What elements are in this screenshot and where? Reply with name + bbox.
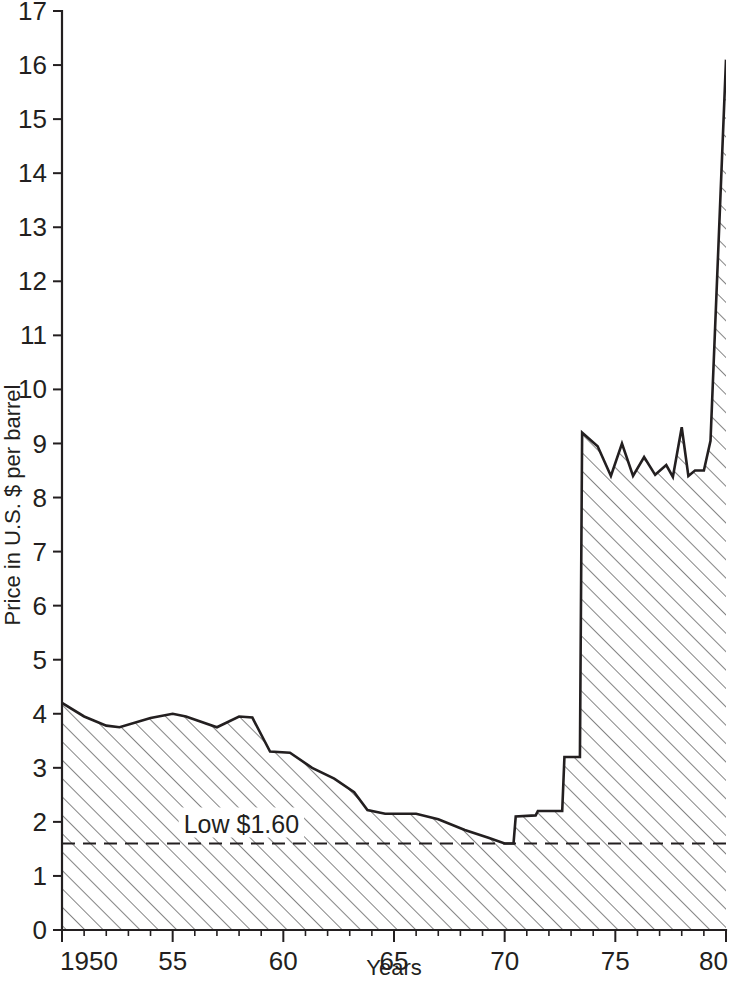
y-tick-label: 8 [33,483,47,513]
x-axis-title: Years [366,955,421,980]
x-tick-label: 75 [601,946,630,976]
y-tick-label: 16 [18,50,47,80]
y-tick-label: 5 [33,645,47,675]
chart-canvas: Low $1.60 01234567891011121314151617 195… [0,0,747,982]
x-tick-label: 55 [158,946,187,976]
y-tick-label: 15 [18,104,47,134]
y-tick-label: 14 [18,158,47,188]
y-tick-label: 3 [33,753,47,783]
y-tick-label: 17 [18,0,47,26]
y-axis-title: Price in U.S. $ per barrel [0,385,25,626]
price-area-fill [62,60,726,930]
y-tick-label: 12 [18,266,47,296]
x-tick-label: 60 [269,946,298,976]
y-tick-label: 0 [33,915,47,945]
low-reference-label: Low $1.60 [184,810,299,838]
y-tick-label: 2 [33,807,47,837]
y-tick-label: 6 [33,591,47,621]
x-tick-label: 70 [490,946,519,976]
data-area-group [62,60,726,930]
x-tick-label: 1950 [60,946,118,976]
y-tick-label: 11 [20,320,47,350]
x-tick-label: 80 [699,946,728,976]
y-tick-label: 13 [18,212,47,242]
y-tick-label: 1 [33,861,47,891]
y-tick-label: 7 [33,537,47,567]
y-tick-label: 4 [33,699,47,729]
oil-price-chart-figure: Low $1.60 01234567891011121314151617 195… [0,0,747,982]
y-tick-label: 9 [33,429,47,459]
